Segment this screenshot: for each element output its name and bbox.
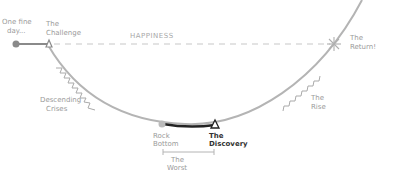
happiness-label: HAPPINESS bbox=[130, 32, 174, 40]
worst-label-1: The bbox=[170, 156, 184, 164]
story-arc-diagram: One fine day... The Challenge HAPPINESS … bbox=[0, 0, 406, 172]
worst-bracket bbox=[163, 149, 214, 155]
challenge-label-2: Challenge bbox=[46, 29, 81, 37]
start-dot bbox=[13, 41, 20, 48]
discovery-label-1: The bbox=[209, 132, 224, 140]
rise-label-1: The bbox=[310, 94, 324, 102]
descending-label-2: Crises bbox=[46, 105, 68, 113]
challenge-marker-icon bbox=[46, 40, 52, 47]
rock-bottom-dot bbox=[159, 121, 166, 128]
rock-bottom-label-1: Rock bbox=[153, 132, 171, 140]
return-starburst-icon bbox=[327, 37, 341, 51]
return-label-1: The bbox=[349, 34, 363, 42]
return-label-2: Return! bbox=[350, 43, 376, 51]
descending-label-1: Descending bbox=[40, 96, 81, 104]
discovery-label-2: Discovery bbox=[209, 140, 248, 148]
start-label-1: One fine bbox=[2, 18, 32, 26]
worst-label-2: Worst bbox=[167, 164, 187, 172]
challenge-label-1: The bbox=[45, 20, 59, 28]
start-label-2: day... bbox=[7, 27, 26, 35]
rock-bottom-label-2: Bottom bbox=[153, 140, 179, 148]
rise-label-2: Rise bbox=[311, 103, 326, 111]
